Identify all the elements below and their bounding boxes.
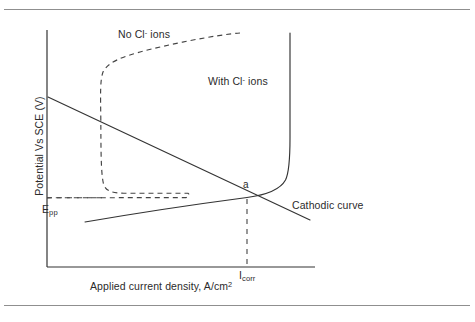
icorr-subscript: corr xyxy=(242,274,255,283)
annotation-point-a: a xyxy=(243,179,249,190)
x-axis-label-exponent: 2 xyxy=(228,280,232,289)
curve-cathodic xyxy=(48,97,310,220)
polarization-plot xyxy=(0,0,475,322)
no-cl-text: No Cl xyxy=(118,28,145,40)
no-cl-tail: ions xyxy=(147,28,170,40)
annotation-cathodic-curve: Cathodic curve xyxy=(292,199,363,211)
x-axis-label: Applied current density, A/cm2 xyxy=(90,280,232,292)
with-cl-tail: ions xyxy=(245,75,268,87)
x-axis-label-text: Applied current density, A/cm xyxy=(90,280,228,292)
annotation-no-cl-ions: No Cl- ions xyxy=(118,28,170,40)
figure-container: Potential Vs SCE (V) Applied current den… xyxy=(0,0,475,322)
annotation-epp: Epp xyxy=(42,203,58,215)
y-axis-label: Potential Vs SCE (V) xyxy=(33,86,45,206)
epp-subscript: pp xyxy=(49,208,58,217)
annotation-icorr: Icorr xyxy=(239,269,255,281)
annotation-with-cl-ions: With Cl- ions xyxy=(208,75,268,87)
with-cl-text: With Cl xyxy=(208,75,243,87)
